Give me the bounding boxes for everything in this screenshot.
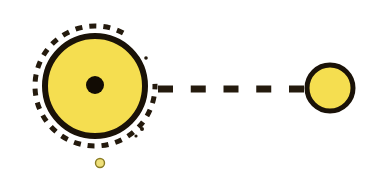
connector-dash — [289, 86, 304, 93]
orbit-arc-taper-dot — [140, 127, 144, 131]
tiny-yellow-dot — [96, 159, 105, 168]
small-yellow-circle — [307, 65, 353, 111]
connector-dash — [191, 86, 206, 93]
center-black-dot — [86, 76, 104, 94]
connector-dash — [158, 86, 173, 93]
diagram-canvas — [0, 0, 384, 179]
orbit-arc-taper-dot — [144, 56, 148, 60]
connector-dash — [256, 86, 271, 93]
connector-dash — [224, 86, 239, 93]
orbit-arc-taper-dot — [134, 134, 137, 137]
orbital-diagram — [0, 0, 384, 179]
